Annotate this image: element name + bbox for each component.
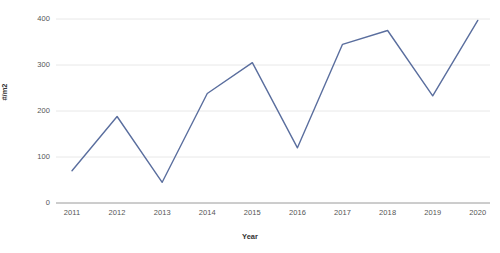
x-axis-title: Year — [0, 232, 500, 241]
x-axis-tick-label: 2011 — [52, 208, 92, 217]
line-chart: 0100200300400 20112012201320142015201620… — [0, 0, 500, 253]
x-axis-tick-label: 2014 — [187, 208, 227, 217]
data-line-series-0 — [72, 20, 478, 182]
y-axis-tick-label: 100 — [20, 152, 50, 161]
x-axis-tick-label: 2017 — [323, 208, 363, 217]
x-axis-tick-label: 2013 — [142, 208, 182, 217]
gridlines — [56, 19, 490, 203]
x-axis-tick-label: 2015 — [232, 208, 272, 217]
y-axis-tick-label: 300 — [20, 60, 50, 69]
x-axis-tick-label: 2016 — [277, 208, 317, 217]
x-axis-tick-label: 2018 — [368, 208, 408, 217]
y-axis-tick-label: 200 — [20, 106, 50, 115]
x-axis-tick-label: 2020 — [458, 208, 498, 217]
x-axis-tick-label: 2019 — [413, 208, 453, 217]
x-axis-tick-label: 2012 — [97, 208, 137, 217]
y-axis-tick-label: 400 — [20, 14, 50, 23]
y-axis-title: #/m2 — [0, 72, 9, 112]
y-axis-tick-label: 0 — [20, 198, 50, 207]
